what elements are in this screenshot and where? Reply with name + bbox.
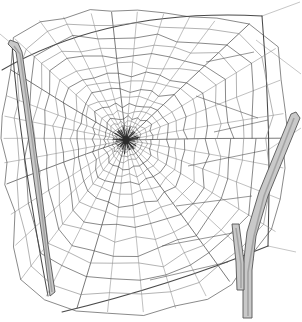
web-drawing-canvas	[0, 0, 302, 322]
hub-center	[123, 136, 130, 144]
spider-web-illustration: Orb Spider Web	[0, 0, 302, 322]
